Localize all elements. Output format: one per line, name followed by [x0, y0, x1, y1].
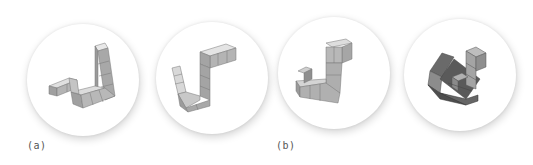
polycube-shape-2 — [156, 22, 268, 134]
panel-label-a: (a) — [27, 140, 47, 151]
polycube-shape-3 — [278, 17, 390, 129]
shape-disc-3 — [278, 17, 390, 129]
polycube-shape-4 — [404, 19, 516, 131]
shape-disc-4 — [404, 19, 516, 131]
shape-disc-2 — [156, 22, 268, 134]
shape-disc-1 — [27, 24, 139, 136]
panel-label-b: (b) — [276, 140, 296, 151]
polycube-shape-1 — [27, 24, 139, 136]
